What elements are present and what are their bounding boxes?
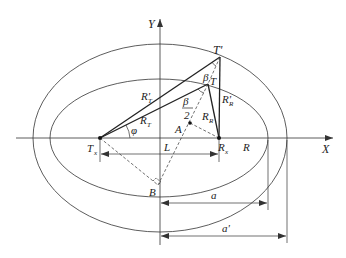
svg-text:R: R [201,110,209,122]
svg-text:2: 2 [184,109,190,121]
point-rx [217,136,221,140]
line-tprime-rx [219,57,220,138]
label-L: L [163,141,170,153]
svg-text:R: R [228,100,234,108]
label-t: T [210,75,217,87]
label-phi: φ [131,124,137,136]
svg-text:R: R [217,141,225,153]
beta-arc [212,62,216,66]
point-tx [98,136,102,140]
dashed-a-rx [190,123,219,138]
svg-text:R: R [208,117,214,125]
svg-text:x: x [93,149,98,157]
label-r-t-prime: R' T [140,90,153,105]
phi-arc [126,125,130,138]
x-axis-label: X [321,142,330,156]
line-t-rx [208,84,219,138]
label-b-point: B [149,186,156,198]
svg-text:T: T [87,142,94,154]
label-r-r-prime: R' R [221,93,234,108]
label-beta: β [202,71,209,83]
label-r-t: R T [139,114,152,129]
point-a [188,121,192,125]
label-tx: T x [87,142,98,157]
label-a-point: A [174,123,182,135]
label-a-dimension: a [211,189,217,201]
svg-text:β: β [182,95,189,107]
label-R: R [242,141,250,153]
line-tx-t [100,84,208,138]
bistatic-ellipse-diagram: Y X T' β T R' T R T R' R R R β 2 φ A T x… [0,0,346,258]
label-t-prime: T' [213,43,223,57]
svg-text:T: T [147,121,152,129]
svg-text:x: x [224,148,229,156]
dashed-tx-b [100,138,158,185]
y-axis-label: Y [148,17,156,31]
beta-half-arc [198,89,204,93]
label-a-prime-dimension: a' [222,222,231,234]
svg-text:R: R [139,114,147,126]
label-r-r: R R [201,110,214,125]
svg-text:T: T [148,97,153,105]
